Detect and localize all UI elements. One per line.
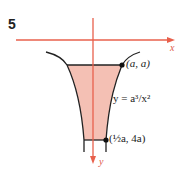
point-top-label: (a, a) — [126, 57, 150, 69]
point-top — [119, 62, 124, 67]
point-bottom — [103, 137, 108, 142]
point-bottom-label: (½a, 4a) — [109, 132, 145, 144]
y-axis-label: y — [99, 156, 103, 167]
curve-equation-label: y = a³/x² — [113, 92, 150, 104]
y-axis-arrow-icon — [90, 156, 96, 164]
diagram — [0, 0, 186, 170]
x-axis-label: x — [170, 42, 174, 53]
